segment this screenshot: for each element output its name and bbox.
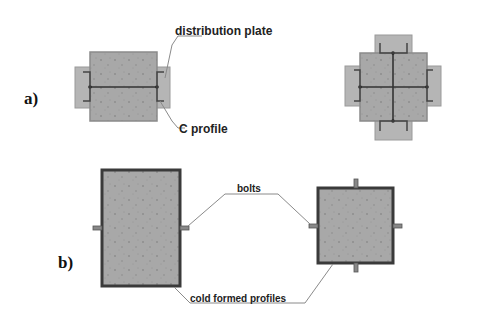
label-cold-formed-profiles: cold formed profiles [190,293,287,304]
part-label-b: b) [58,253,73,272]
bolt-left [93,226,102,230]
leader-distribution-plate [165,36,202,78]
label-distribution-plate: distribution plate [175,24,273,38]
bolt-top [354,179,358,188]
part-a-biaxial-column [345,35,441,140]
bolt-right [393,224,402,228]
bolt-left [309,224,318,228]
part-a-single-axis-column [75,52,170,121]
label-c-profile: C profile [179,122,228,136]
leader-bolts [188,194,310,226]
part-b-square-column [309,179,402,272]
bolt-right [180,226,189,230]
bolt-bottom [354,263,358,272]
part-label-a: a) [24,89,38,108]
diagram-canvas: distribution plate C profile a) bolts co… [0,0,477,318]
part-b-rectangular-column [93,170,189,286]
label-bolts: bolts [237,183,261,194]
